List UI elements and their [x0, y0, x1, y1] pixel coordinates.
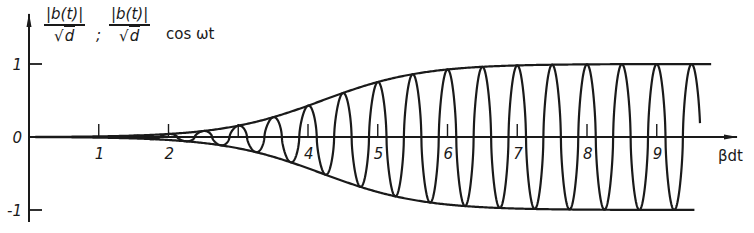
- x-tick-label: 6: [444, 145, 454, 163]
- fraction-2: |b(t)| √d: [109, 6, 150, 44]
- fraction-2-radicand: d: [129, 26, 141, 45]
- fraction-1-radicand: d: [64, 26, 76, 45]
- lower-envelope-curve: [29, 137, 694, 210]
- x-tick-label: 4: [304, 145, 314, 163]
- x-tick-label: 8: [583, 145, 593, 163]
- x-tick-label: 1: [95, 145, 105, 163]
- y-tick-label: 1: [12, 56, 22, 74]
- fraction-1-numerator: |b(t)|: [44, 6, 85, 22]
- sqrt-icon: √: [119, 27, 129, 45]
- fraction-2-denominator: √d: [119, 28, 140, 44]
- y-tick-label: 0: [12, 129, 22, 147]
- label-separator: ;: [96, 26, 101, 44]
- fraction-1: |b(t)| √d: [44, 6, 85, 44]
- x-tick-label: 5: [374, 145, 384, 163]
- x-tick-label: 2: [165, 145, 175, 163]
- fraction-2-numerator: |b(t)|: [109, 6, 150, 22]
- sqrt-icon: √: [54, 27, 64, 45]
- label-cos-omega-t: cos ωt: [166, 25, 214, 43]
- x-tick-label: 7: [513, 145, 523, 163]
- x-axis-label: βdt: [718, 147, 743, 165]
- x-tick-label: 9: [653, 145, 663, 163]
- y-tick-label: -1: [7, 202, 22, 220]
- fraction-1-denominator: √d: [54, 28, 75, 44]
